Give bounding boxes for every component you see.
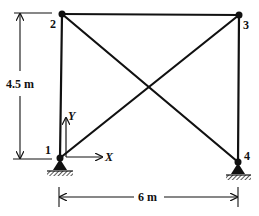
node-label-4: 4	[244, 149, 250, 163]
member-1-2	[60, 14, 62, 158]
truss-diagram: 1 2 3 4 Y X 4.5 m 6 m	[0, 0, 259, 216]
members	[60, 14, 239, 162]
height-dimension-label: 4.5 m	[6, 77, 34, 91]
pin-support-1	[47, 159, 73, 176]
diagram-svg: 1 2 3 4 Y X 4.5 m 6 m	[0, 0, 259, 216]
member-3-4	[238, 15, 239, 162]
joint-3	[236, 12, 243, 19]
y-axis-label: Y	[68, 109, 77, 123]
width-dimension-label: 6 m	[138, 190, 157, 204]
x-axis-label: X	[104, 150, 114, 164]
pin-support-4	[226, 163, 251, 180]
node-label-2: 2	[50, 17, 56, 31]
node-label-1: 1	[45, 143, 51, 157]
member-2-3	[62, 14, 239, 15]
node-label-3: 3	[243, 18, 249, 32]
joint-2	[59, 11, 66, 18]
